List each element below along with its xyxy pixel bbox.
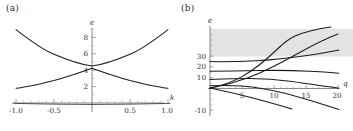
panel-b-ytick-3: 30	[197, 52, 207, 61]
panel-b-xtick-1: 10	[269, 91, 279, 100]
panel-b-y-axis-label: ϵ	[208, 16, 212, 25]
panel-b-curve-4	[210, 70, 339, 73]
panel-b-xtick-2: 15	[301, 91, 311, 100]
panel-a-plot: -1.0 -0.5 0.5 1.0 2 4 6 8 ϵ k	[0, 0, 176, 131]
panel-b-ytick-2: 20	[197, 62, 207, 71]
figure-container: (a)	[0, 0, 353, 131]
panel-a-xtick-0: -1.0	[9, 106, 23, 115]
panel-b-curve-7	[210, 88, 292, 109]
panel-b-x-axis-label: q	[343, 79, 348, 88]
panel-b: (b)	[176, 0, 353, 131]
panel-a-ytick-2: 6	[83, 49, 88, 58]
panel-b-xtick-3: 20	[332, 91, 342, 100]
panel-b-ytick-1: 10	[197, 73, 207, 82]
panel-b-ytick-0: -10	[194, 106, 206, 115]
panel-a-y-axis-label: ϵ	[90, 18, 94, 27]
panel-a-ytick-3: 8	[83, 33, 88, 42]
panel-a-xtick-1: -0.5	[47, 106, 61, 115]
panel-a-xtick-2: 0.5	[124, 106, 136, 115]
panel-a-x-axis-label: k	[170, 93, 175, 102]
panel-a-xtick-3: 1.0	[161, 106, 173, 115]
panel-b-xtick-0: 5	[240, 91, 245, 100]
panel-a-ytick-0: 2	[83, 82, 88, 91]
panel-a: (a)	[0, 0, 176, 131]
panel-b-shaded-band	[210, 29, 353, 57]
panel-a-ytick-1: 4	[83, 66, 88, 75]
panel-a-y-minor-ticks	[92, 29, 94, 95]
panel-b-plot: 5 10 15 20 -10 10 20 30 ϵ q	[176, 0, 353, 131]
